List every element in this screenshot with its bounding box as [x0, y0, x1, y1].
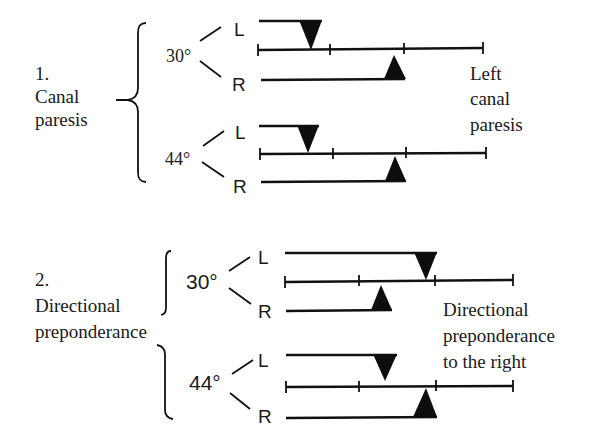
temperature-label: 44°	[189, 371, 221, 394]
right-response-bar	[286, 310, 392, 311]
right-response-marker-up-triangle	[384, 55, 406, 79]
scale-axis	[285, 280, 513, 282]
left-ear-label: L	[258, 350, 269, 371]
left-response-marker-down-triangle	[373, 354, 397, 381]
branch-line-left	[232, 360, 253, 374]
section-1-row-30: 30° L R	[166, 19, 483, 95]
branch-line-left	[200, 27, 221, 41]
left-response-marker-down-triangle	[299, 20, 322, 50]
temperature-label: 30°	[166, 46, 191, 66]
section-2-conclusion-line-2: preponderance	[443, 325, 555, 346]
right-ear-label: R	[232, 74, 246, 95]
right-response-bar	[286, 417, 437, 418]
section-2-label-line-1: Directional	[35, 295, 120, 316]
right-ear-label: R	[233, 176, 247, 197]
section-1-conclusion-line-2: canal	[470, 88, 510, 109]
section-1-number: 1.	[35, 63, 49, 84]
right-response-marker-up-triangle	[385, 156, 406, 181]
branch-line-right	[229, 288, 251, 304]
section-2-number: 2.	[35, 269, 49, 290]
section-1-label-line-2: paresis	[35, 109, 88, 130]
section-2-brace-upper	[161, 251, 171, 315]
section-canal-paresis: 1. Canal paresis 30° L R 44° L	[35, 19, 523, 197]
branch-line-right	[200, 61, 221, 77]
scale-axis	[286, 386, 513, 387]
left-ear-label: L	[234, 19, 245, 40]
right-response-bar	[261, 79, 405, 80]
temperature-label: 44°	[165, 149, 190, 169]
section-1-brace	[116, 23, 146, 182]
section-2-brace-lower	[157, 345, 173, 419]
section-2-conclusion-line-1: Directional	[443, 299, 528, 320]
left-response-marker-down-triangle	[297, 125, 319, 153]
branch-line-right	[230, 393, 250, 409]
branch-line-left	[203, 131, 224, 146]
branch-line-left	[229, 257, 250, 271]
right-response-bar	[261, 181, 406, 182]
scale-axis	[260, 153, 486, 154]
right-ear-label: R	[258, 301, 272, 322]
caloric-test-diagram: 1. Canal paresis 30° L R 44° L	[0, 0, 598, 447]
right-response-marker-up-triangle	[371, 285, 392, 310]
section-1-conclusion-line-1: Left	[470, 63, 502, 84]
temperature-label: 30°	[186, 270, 218, 293]
left-ear-label: L	[258, 247, 269, 268]
section-1-label-line-1: Canal	[35, 86, 79, 107]
right-response-marker-up-triangle	[413, 388, 437, 417]
section-2-conclusion-line-3: to the right	[443, 351, 527, 372]
left-response-marker-down-triangle	[414, 252, 437, 280]
section-1-row-44: 44° L R	[165, 122, 486, 197]
section-directional-preponderance: 2. Directional preponderance 30° L R 44°	[35, 247, 555, 427]
right-ear-label: R	[258, 406, 272, 427]
section-2-label-line-2: preponderance	[35, 321, 147, 342]
branch-line-right	[202, 162, 224, 177]
section-1-conclusion-line-3: paresis	[470, 114, 523, 135]
left-ear-label: L	[235, 122, 246, 143]
scale-axis	[258, 48, 483, 50]
